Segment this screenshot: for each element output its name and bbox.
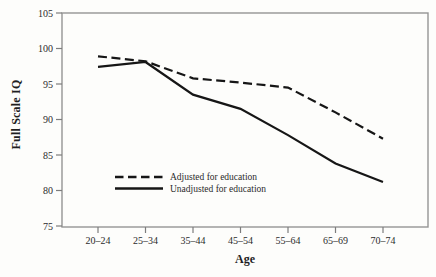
legend-label: Unadjusted for education [170,184,266,194]
legend-label: Adjusted for education [170,172,257,182]
line-chart-plot-area: 105100959085807520–2425–3435–4445–5455–6… [0,0,436,277]
x-axis-title: Age [62,252,428,267]
y-tick-label: 95 [43,79,53,90]
series-line-adjusted [98,56,383,138]
x-tick-label: 35–44 [181,235,206,246]
y-tick-label: 75 [43,221,53,232]
y-axis-title: Full Scale IQ [9,55,24,175]
y-tick-label: 80 [43,185,53,196]
y-tick-label: 90 [43,114,53,125]
y-tick-label: 105 [38,8,53,19]
x-tick-label: 65–69 [323,235,348,246]
x-tick-label: 25–34 [133,235,158,246]
chart-figure: Full Scale IQ 105100959085807520–2425–34… [0,0,436,277]
plot-frame [62,13,428,227]
series-line-unadjusted [98,62,383,182]
x-tick-label: 70–74 [371,235,396,246]
x-tick-label: 55–64 [276,235,301,246]
x-tick-label: 20–24 [86,235,111,246]
y-tick-label: 100 [38,43,53,54]
y-tick-label: 85 [43,150,53,161]
x-tick-label: 45–54 [228,235,253,246]
